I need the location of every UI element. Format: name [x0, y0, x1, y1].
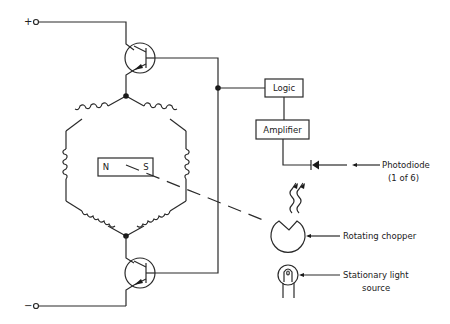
photodiode-count-label: (1 of 6) [388, 173, 419, 183]
magnet-north-label: N [103, 162, 109, 172]
light-source-label-line2: source [362, 283, 390, 293]
positive-rail-wire [39, 22, 135, 50]
light-source-label: Stationary light [343, 270, 409, 280]
stator-winding-hexagon [63, 96, 189, 236]
logic-label: Logic [273, 83, 296, 93]
top-transistor [125, 43, 155, 96]
amplifier-photodiode-wire [283, 139, 311, 165]
rotating-chopper [271, 221, 305, 252]
top-node-dot [123, 93, 129, 99]
base-bus-wire [155, 58, 218, 273]
photodiode-label: Photodiode [382, 160, 430, 170]
motor-control-circuit: + − [0, 0, 450, 324]
magnet-south-label: S [143, 162, 148, 172]
negative-terminal [34, 304, 39, 309]
shaft-linkage-dashed [126, 165, 268, 222]
negative-terminal-label: − [24, 300, 32, 311]
amplifier-label: Amplifier [263, 125, 302, 135]
photodiode-symbol [311, 160, 347, 170]
photodiode-callout-arrow-icon [352, 163, 357, 167]
positive-terminal-label: + [24, 16, 32, 27]
chopper-label: Rotating chopper [343, 231, 417, 241]
light-callout-arrow-icon [299, 273, 304, 277]
light-ray-arrows-icon [290, 183, 305, 213]
bottom-transistor [125, 236, 155, 306]
light-source-lamp-icon [278, 265, 298, 298]
chopper-callout-arrow-icon [306, 234, 311, 238]
positive-terminal [34, 20, 39, 25]
